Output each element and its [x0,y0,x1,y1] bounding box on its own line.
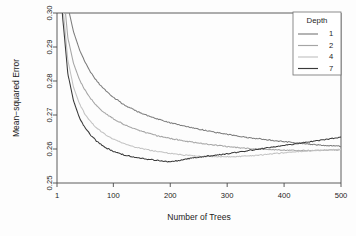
x-tick-label: 500 [335,191,348,200]
mse-vs-trees-line-chart: 0.250.260.270.280.290.301100200300400500… [0,0,356,236]
y-axis-title: Mean−squared Error [11,59,21,137]
chart-figure: 0.250.260.270.280.290.301100200300400500… [0,0,356,236]
y-tick-label: 0.26 [45,142,54,157]
legend-title: Depth [307,16,328,25]
x-tick-label: 400 [278,191,291,200]
legend-label-depth-1: 1 [329,29,333,38]
y-tick-label: 0.28 [45,74,54,89]
x-tick-label: 200 [164,191,177,200]
y-tick-label: 0.27 [45,108,54,123]
y-tick-label: 0.25 [45,176,54,191]
y-tick-label: 0.30 [45,6,54,21]
x-tick-label: 1 [55,191,59,200]
legend-label-depth-2: 2 [329,41,333,50]
legend-label-depth-7: 7 [329,64,333,73]
legend-label-depth-4: 4 [329,52,333,61]
y-tick-label: 0.29 [45,40,54,55]
legend[interactable]: Depth1247 [293,12,341,75]
x-tick-label: 100 [107,191,120,200]
x-tick-label: 300 [221,191,234,200]
x-axis-title: Number of Trees [167,212,230,222]
